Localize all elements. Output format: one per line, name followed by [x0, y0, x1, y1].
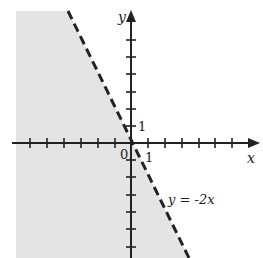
- line-equation-label: y = -2x: [167, 192, 215, 207]
- y-axis-arrow-icon: [126, 10, 136, 22]
- shaded-region: [16, 11, 189, 258]
- origin-label: 0: [120, 147, 128, 162]
- inequality-graph: y x 0 1 1 y = -2x: [0, 0, 263, 258]
- x-axis-label: x: [247, 150, 255, 166]
- x-axis-arrow-icon: [248, 138, 260, 148]
- y-unit-label: 1: [138, 119, 146, 134]
- x-unit-label: 1: [145, 150, 153, 165]
- y-axis-label: y: [117, 9, 127, 25]
